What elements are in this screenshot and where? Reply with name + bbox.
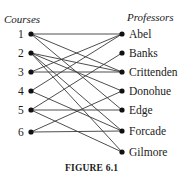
professor-node-banks [119,50,124,55]
professor-node-donohue [119,88,124,93]
professor-label-forcade: Forcade [129,125,166,137]
edge-2-gilmore [31,53,122,152]
course-node-2 [28,50,33,55]
course-label-6: 6 [18,126,24,138]
edge-6-forcade [31,131,122,132]
edge-5-banks [31,53,122,110]
professor-label-banks: Banks [129,47,158,59]
professor-node-edge [119,107,124,112]
professor-node-crittenden [119,69,124,74]
course-label-2: 2 [18,47,24,59]
professor-label-gilmore: Gilmore [129,146,167,158]
course-node-6 [28,129,33,134]
figure-caption: FIGURE 6.1 [65,163,118,173]
professor-label-donohue: Donohue [129,85,171,97]
edge-2-forcade [31,53,122,131]
professor-label-edge: Edge [129,104,153,116]
course-node-4 [28,88,33,93]
course-node-5 [28,107,33,112]
professor-node-gilmore [119,149,124,154]
professor-node-forcade [119,128,124,133]
edge-4-abel [31,34,122,91]
professor-label-abel: Abel [129,28,151,40]
professor-node-abel [119,31,124,36]
course-label-3: 3 [18,66,24,78]
course-label-5: 5 [18,104,24,116]
professor-label-crittenden: Crittenden [129,66,178,78]
course-node-3 [28,69,33,74]
course-label-4: 4 [18,85,24,97]
course-label-1: 1 [18,28,24,40]
course-node-1 [28,31,33,36]
